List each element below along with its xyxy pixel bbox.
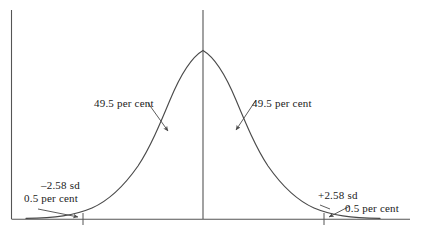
- normal-distribution-figure: 49.5 per cent 49.5 per cent –2.58 sd 0.5…: [0, 0, 425, 236]
- label-left-area-percent: 49.5 per cent: [94, 98, 154, 109]
- label-negative-sd: –2.58 sd: [41, 180, 80, 191]
- label-positive-sd: +2.58 sd: [318, 190, 358, 201]
- label-right-tail-percent: 0.5 per cent: [345, 203, 399, 214]
- label-right-area-percent: 49.5 per cent: [252, 98, 312, 109]
- leader-arrow-left-tail: [38, 209, 78, 217]
- connector-positive-sd-label: [320, 205, 330, 209]
- label-left-tail-percent: 0.5 per cent: [24, 193, 78, 204]
